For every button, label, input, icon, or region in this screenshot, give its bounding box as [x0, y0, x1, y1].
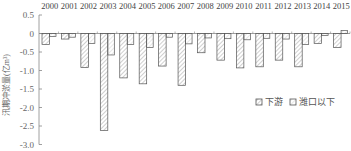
bar-weikou: [88, 34, 95, 44]
bar-xiayou: [295, 34, 303, 67]
bar-group-2001: [61, 34, 75, 40]
bar-weikou: [322, 34, 329, 36]
bar-weikou: [69, 34, 76, 38]
bar-xiayou: [275, 34, 283, 61]
bar-xiayou: [314, 34, 322, 44]
legend-item: 下游: [256, 96, 283, 107]
bar-xiayou: [42, 34, 50, 45]
year-label: 2004: [119, 1, 137, 11]
bar-weikou: [127, 34, 134, 45]
legend-label: 潍口以下: [299, 96, 335, 107]
bar-group-2014: [314, 34, 328, 44]
bar-xiayou: [198, 34, 206, 53]
bars: [42, 31, 348, 131]
year-label: 2011: [255, 1, 272, 11]
legend-label: 下游: [265, 96, 283, 107]
bar-weikou: [147, 34, 154, 48]
year-label: 2002: [80, 1, 97, 11]
bar-group-2012: [275, 34, 289, 61]
y-tick-label: -1.5: [20, 84, 35, 94]
y-tick-label: 0.5: [23, 10, 35, 20]
year-label: 2006: [158, 1, 175, 11]
bar-xiayou: [61, 34, 69, 40]
year-label: 2015: [333, 1, 350, 11]
bar-xiayou: [120, 34, 128, 78]
bar-group-2002: [81, 34, 95, 68]
bar-group-2007: [178, 34, 192, 86]
bar-weikou: [50, 34, 57, 37]
year-label: 2009: [216, 1, 233, 11]
bar-group-2005: [139, 34, 153, 84]
bar-weikou: [244, 34, 251, 40]
bar-weikou: [205, 34, 212, 38]
bar-group-2003: [100, 34, 114, 131]
y-tick-label: -2.5: [20, 121, 35, 131]
bar-xiayou: [81, 34, 89, 68]
bar-xiayou: [236, 34, 244, 68]
y-tick-label: -0.5: [20, 47, 35, 57]
year-label: 2013: [294, 1, 311, 11]
year-label: 2001: [61, 1, 78, 11]
bar-xiayou: [159, 34, 167, 67]
y-tick-label: 0: [30, 29, 35, 39]
bar-group-2009: [217, 34, 231, 61]
year-labels: 2000200120022003200420052006200720082009…: [41, 1, 350, 11]
bar-weikou: [166, 34, 173, 38]
year-label: 2003: [100, 1, 117, 11]
bar-weikou: [186, 34, 193, 44]
bar-group-2006: [159, 34, 173, 67]
y-axis: 0.50-0.5-1.0-1.5-2.0-2.5-3.0: [20, 10, 42, 150]
bar-weikou: [108, 34, 115, 55]
bar-weikou: [302, 34, 309, 45]
bar-weikou: [283, 34, 290, 40]
bar-group-2011: [256, 34, 270, 67]
bar-group-2000: [42, 34, 56, 45]
bar-weikou: [224, 34, 231, 39]
bar-weikou: [263, 34, 270, 39]
bar-xiayou: [139, 34, 147, 84]
y-tick-label: -1.0: [20, 66, 35, 76]
bar-weikou: [341, 31, 348, 34]
legend-swatch: [256, 99, 262, 105]
year-label: 2005: [138, 1, 155, 11]
year-label: 2000: [41, 1, 58, 11]
year-label: 2012: [274, 1, 291, 11]
y-axis-title: 汛期冲淤量(亿m³): [1, 54, 11, 116]
year-label: 2008: [197, 1, 214, 11]
y-tick-label: -2.0: [20, 103, 35, 113]
bar-xiayou: [217, 34, 225, 61]
legend-swatch: [290, 99, 296, 105]
bar-group-2013: [295, 34, 309, 67]
year-label: 2007: [177, 1, 194, 11]
legend: 下游潍口以下: [256, 96, 335, 107]
bar-xiayou: [178, 34, 186, 86]
bar-group-2015: [334, 31, 348, 48]
y-tick-label: -3.0: [20, 140, 35, 150]
legend-item: 潍口以下: [290, 96, 335, 107]
bar-xiayou: [256, 34, 264, 67]
bar-xiayou: [334, 34, 342, 48]
bar-group-2008: [198, 34, 212, 53]
bar-group-2010: [236, 34, 250, 68]
year-label: 2014: [313, 1, 331, 11]
bar-xiayou: [100, 34, 108, 131]
year-label: 2010: [236, 1, 253, 11]
chart: 0.50-0.5-1.0-1.5-2.0-2.5-3.0 20002001200…: [0, 0, 351, 151]
bar-group-2004: [120, 34, 134, 78]
